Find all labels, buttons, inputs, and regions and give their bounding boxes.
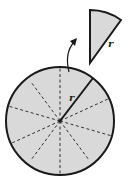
sector-diagram: r r <box>0 0 132 188</box>
center-point <box>59 120 62 123</box>
removed-sector: r <box>90 10 121 63</box>
divided-circle: r <box>6 67 114 175</box>
radius-label: r <box>69 92 75 103</box>
sector-side-label: r <box>108 38 114 49</box>
